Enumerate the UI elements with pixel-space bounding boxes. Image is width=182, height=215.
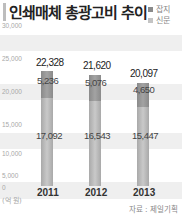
bar-2011 [41, 71, 53, 186]
chart-plot-area: 30,000 25,000 20,000 15,000 10,000 5,000… [0, 0, 182, 215]
x-tick-label: 2013 [133, 187, 155, 198]
y-tick-label: 20,000 [2, 88, 22, 95]
bar-segment-newspaper [137, 107, 149, 186]
bar-segment-newspaper [41, 98, 53, 186]
y-tick-label: 5,000 [2, 172, 18, 179]
bar-magazine-label: 4,650 [133, 84, 154, 95]
source-note: 자료 : 제일기획 [129, 203, 178, 214]
y-tick-label: 15,000 [2, 121, 22, 128]
y-tick-label: 0 [2, 184, 6, 191]
bar-total-label: 21,620 [83, 60, 111, 71]
bar-newspaper-label: 15,447 [132, 130, 158, 141]
legend-swatch-icon [148, 18, 153, 23]
y-axis-unit: (억 원) [2, 195, 22, 205]
bar-total-label: 22,328 [36, 57, 64, 68]
bar-total-label: 20,097 [130, 68, 158, 79]
chart-title: 인쇄매체 총광고비 추이 [9, 1, 147, 22]
bar-segment-newspaper [89, 101, 101, 186]
legend-label: 신문 [156, 15, 170, 26]
legend-swatch-icon [148, 7, 153, 12]
x-tick-label: 2012 [85, 187, 107, 198]
legend-item-newspaper: 신문 [148, 15, 170, 26]
bar-newspaper-label: 16,543 [84, 130, 110, 141]
legend-label: 잡지 [156, 4, 170, 15]
grid-band [0, 35, 182, 51]
x-tick-label: 2011 [37, 187, 59, 198]
title-accent-bar [3, 3, 6, 21]
y-tick-label: 30,000 [2, 22, 22, 29]
bar-magazine-label: 5,236 [37, 75, 58, 86]
y-tick-label: 10,000 [2, 150, 22, 157]
bar-newspaper-label: 17,092 [36, 130, 62, 141]
y-tick-label: 25,000 [2, 55, 22, 62]
chart-legend: 잡지 신문 [148, 4, 170, 26]
legend-item-magazine: 잡지 [148, 4, 170, 15]
bar-magazine-label: 5,076 [85, 77, 106, 88]
